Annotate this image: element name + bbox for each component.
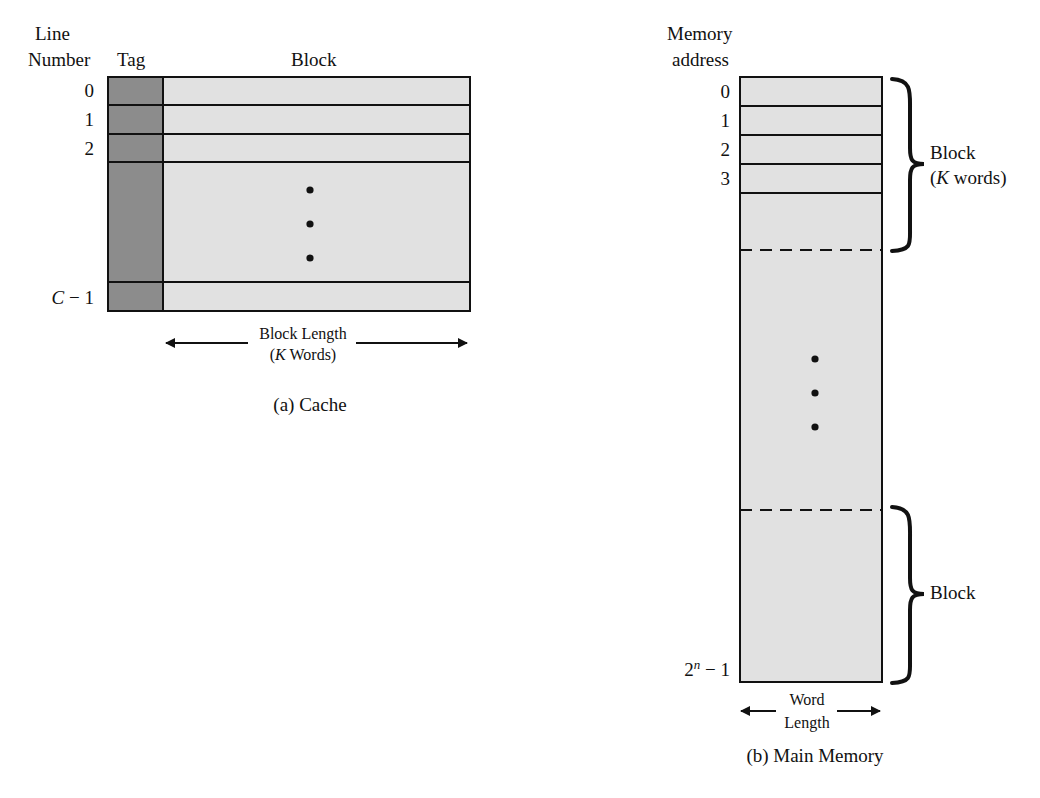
word-length-label-2: Length bbox=[776, 713, 838, 732]
ellipsis-dot-icon bbox=[811, 355, 818, 362]
memory-last-address-label: 2n − 1 bbox=[660, 654, 730, 681]
diagram-graphics bbox=[0, 0, 1040, 798]
memory-address-label: 3 bbox=[690, 168, 730, 190]
ellipsis-dot-icon bbox=[811, 389, 818, 396]
cache-header-number: Number bbox=[28, 49, 90, 71]
cache-caption: (a) Cache bbox=[200, 394, 420, 416]
memory-address-label: 0 bbox=[690, 81, 730, 103]
memory-table bbox=[740, 77, 882, 682]
ellipsis-dot-icon bbox=[306, 220, 313, 227]
block-length-unit: (K Words) bbox=[240, 345, 366, 364]
memory-address-label: 2 bbox=[690, 139, 730, 161]
cache-line-label: 0 bbox=[60, 80, 94, 102]
memory-caption: (b) Main Memory bbox=[720, 745, 910, 767]
ellipsis-dot-icon bbox=[306, 186, 313, 193]
cache-line-label: 1 bbox=[60, 109, 94, 131]
word-length-label: Word bbox=[776, 690, 838, 709]
cache-header-line: Line bbox=[35, 23, 70, 45]
ellipsis-dot-icon bbox=[811, 423, 818, 430]
memory-address-label: 1 bbox=[690, 110, 730, 132]
memory-header-line1: Memory bbox=[667, 23, 732, 45]
memory-header-line2: address bbox=[672, 49, 729, 71]
top-block-label: Block bbox=[930, 142, 975, 164]
top-block-unit: (K words) bbox=[930, 167, 1007, 189]
block-length-label: Block Length bbox=[240, 324, 366, 343]
bottom-block-label: Block bbox=[930, 582, 975, 604]
bottom-block-brace-icon bbox=[892, 507, 924, 683]
cache-line-label: 2 bbox=[60, 138, 94, 160]
top-block-brace-icon bbox=[892, 79, 924, 251]
cache-header-block: Block bbox=[291, 49, 336, 71]
cache-last-line-label: C − 1 bbox=[30, 287, 94, 309]
cache-table bbox=[108, 77, 470, 311]
ellipsis-dot-icon bbox=[306, 254, 313, 261]
cache-header-tag: Tag bbox=[117, 49, 145, 71]
